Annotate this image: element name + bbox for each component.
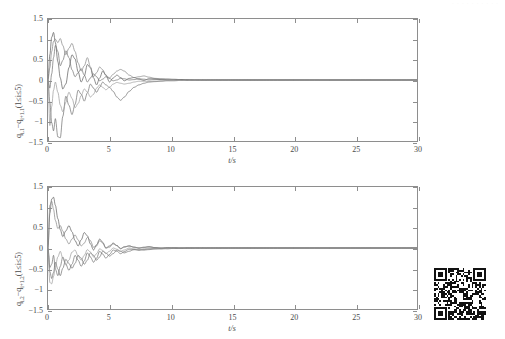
x-tick-label: 20 <box>290 145 298 154</box>
x-tick-mark <box>234 19 235 23</box>
x-tick-mark <box>357 305 358 309</box>
x-tick-mark <box>110 187 111 191</box>
x-axis-title-top: t/s <box>228 156 236 165</box>
page-header-faint-text: · · · · · · · · · · <box>369 1 499 9</box>
y-tick-mark <box>413 122 417 123</box>
x-tick-label: 5 <box>107 145 111 154</box>
x-tick-mark <box>110 137 111 141</box>
x-tick-label: 15 <box>229 313 237 322</box>
curve-1 <box>48 32 417 89</box>
x-tick-mark <box>357 187 358 191</box>
y-tick-mark <box>48 208 52 209</box>
y-tick-mark <box>413 102 417 103</box>
y-tick-label: 1.5 <box>0 182 43 191</box>
curve-3 <box>48 39 417 80</box>
y-tick-label: 1 <box>0 202 43 211</box>
x-tick-mark <box>234 305 235 309</box>
curves-top <box>48 19 417 141</box>
y-tick-label: −1.5 <box>0 306 43 315</box>
y-tick-mark <box>48 270 52 271</box>
y-tick-mark <box>413 249 417 250</box>
y-tick-mark <box>413 270 417 271</box>
x-tick-label: 10 <box>167 313 175 322</box>
x-tick-mark <box>172 305 173 309</box>
x-axis-title-bottom: t/s <box>228 324 236 333</box>
y-axis-title-top: qi,1−qi+1,1(1≤i≤5) <box>14 84 25 138</box>
x-tick-mark <box>295 19 296 23</box>
x-tick-label: 30 <box>414 145 422 154</box>
curve-5 <box>48 248 417 284</box>
curve-2 <box>48 80 417 138</box>
x-tick-label: 5 <box>107 313 111 322</box>
x-tick-mark <box>419 19 420 23</box>
x-tick-mark <box>234 137 235 141</box>
y-tick-mark <box>48 311 52 312</box>
curve-1 <box>48 197 417 250</box>
y-tick-mark <box>48 290 52 291</box>
y-tick-mark <box>413 228 417 229</box>
plot-area-top <box>47 18 418 142</box>
curve-4 <box>48 45 417 88</box>
x-tick-mark <box>110 19 111 23</box>
y-tick-mark <box>48 143 52 144</box>
y-tick-mark <box>48 187 52 188</box>
y-tick-mark <box>413 81 417 82</box>
y-tick-mark <box>48 40 52 41</box>
x-tick-mark <box>172 19 173 23</box>
x-tick-label: 20 <box>290 313 298 322</box>
chart-top: 051015202530 −1.5−1−0.500.511.5 t/s qi,1… <box>0 10 505 170</box>
x-tick-label: 30 <box>414 313 422 322</box>
x-tick-label: 25 <box>352 313 360 322</box>
x-tick-label: 0 <box>45 313 49 322</box>
x-tick-mark <box>357 19 358 23</box>
x-tick-mark <box>295 187 296 191</box>
x-tick-mark <box>295 305 296 309</box>
x-tick-label: 0 <box>45 145 49 154</box>
x-tick-label: 10 <box>167 145 175 154</box>
qr-code <box>434 268 486 320</box>
y-tick-label: 1.5 <box>0 14 43 23</box>
y-tick-mark <box>413 60 417 61</box>
y-tick-mark <box>413 208 417 209</box>
curve-4 <box>48 248 417 276</box>
x-tick-mark <box>419 137 420 141</box>
qr-code-graphic <box>434 268 486 320</box>
y-tick-mark <box>413 290 417 291</box>
y-tick-mark <box>413 187 417 188</box>
y-tick-mark <box>413 311 417 312</box>
y-tick-label: −1.5 <box>0 138 43 147</box>
y-tick-mark <box>413 19 417 20</box>
x-tick-label: 25 <box>352 145 360 154</box>
y-tick-label: 1 <box>0 34 43 43</box>
y-tick-mark <box>48 228 52 229</box>
y-tick-mark <box>413 143 417 144</box>
x-tick-mark <box>48 137 49 141</box>
x-tick-mark <box>419 187 420 191</box>
y-tick-mark <box>48 102 52 103</box>
figure-page: · · · · · · · · · · 051015202530 −1.5−1−… <box>0 0 505 339</box>
y-axis-title-bottom: qi,2−qi+1,2(1≤i≤5) <box>14 252 25 306</box>
x-tick-mark <box>295 137 296 141</box>
y-tick-mark <box>48 122 52 123</box>
curve-5 <box>48 80 417 126</box>
x-tick-mark <box>110 305 111 309</box>
qr-modules <box>434 268 486 320</box>
x-tick-mark <box>172 137 173 141</box>
x-tick-mark <box>419 305 420 309</box>
x-tick-mark <box>357 137 358 141</box>
y-tick-mark <box>48 19 52 20</box>
x-tick-mark <box>234 187 235 191</box>
y-tick-mark <box>48 249 52 250</box>
plot-area-bottom <box>47 186 418 310</box>
y-tick-mark <box>48 81 52 82</box>
x-tick-label: 15 <box>229 145 237 154</box>
y-tick-mark <box>48 60 52 61</box>
x-tick-mark <box>172 187 173 191</box>
curves-bottom <box>48 187 417 309</box>
chart-bottom: 051015202530 −1.5−1−0.500.511.5 t/s qi,2… <box>0 178 505 338</box>
y-tick-label: 0.5 <box>0 223 43 232</box>
curve-3 <box>48 201 417 248</box>
x-tick-mark <box>48 305 49 309</box>
y-tick-label: 0.5 <box>0 55 43 64</box>
y-tick-mark <box>413 40 417 41</box>
